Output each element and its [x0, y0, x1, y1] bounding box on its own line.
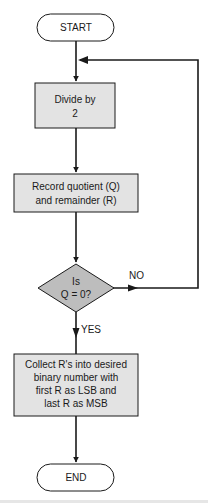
yes-label: YES	[81, 324, 101, 335]
flowchart-canvas: START Divide by 2 Record quotient (Q) an…	[0, 0, 208, 503]
record-line-1: Record quotient (Q)	[32, 181, 120, 192]
record-process-box: Record quotient (Q) and remainder (R)	[14, 174, 138, 212]
yes-arrowhead-icon	[73, 328, 80, 338]
collect-process-box: Collect R's into desired binary number w…	[14, 354, 138, 416]
start-terminator: START	[37, 14, 114, 41]
decision-line-1: Is	[72, 276, 80, 287]
divide-line-2: 2	[72, 108, 78, 119]
loop-arrowhead-icon	[78, 56, 88, 64]
divide-process-box: Divide by 2	[35, 83, 115, 128]
decision-line-2: Q = 0?	[61, 289, 92, 300]
collect-line-1: Collect R's into desired	[25, 359, 127, 370]
collect-line-4: last R as MSB	[44, 398, 108, 409]
divide-line-1: Divide by	[54, 94, 95, 105]
record-line-2: and remainder (R)	[35, 195, 116, 206]
collect-line-2: binary number with	[34, 372, 118, 383]
end-label: END	[65, 472, 86, 483]
collect-line-3: first R as LSB and	[36, 385, 117, 396]
decision-diamond: Is Q = 0?	[38, 264, 114, 312]
no-arrowhead-icon	[128, 285, 138, 292]
no-label: NO	[129, 270, 144, 281]
end-terminator: END	[37, 464, 114, 491]
start-label: START	[60, 22, 92, 33]
